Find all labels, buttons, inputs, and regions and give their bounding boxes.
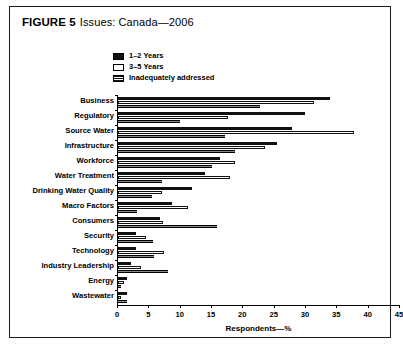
y-axis-tick-label: Source Water: [65, 127, 114, 135]
y-axis-tick-label: Wastewater: [72, 292, 114, 300]
chart-category-group: Infrastructure: [118, 140, 400, 155]
bar-inadequately-addressed: [118, 150, 235, 153]
y-axis-tick-label: Consumers: [72, 217, 114, 225]
bar-inadequately-addressed: [118, 135, 225, 138]
y-axis-tick-label: Infrastructure: [65, 142, 114, 150]
chart-plot-area: BusinessRegulatorySource WaterInfrastruc…: [117, 95, 400, 305]
bar-3-5-years: [118, 221, 163, 224]
x-axis-tick-label: 0: [115, 310, 119, 319]
x-axis-tick: [117, 305, 118, 308]
x-axis-tick-label: 35: [332, 310, 340, 319]
x-axis-tick: [336, 305, 337, 308]
bar-1-2-years: [118, 232, 136, 235]
x-axis-tick-label: 45: [395, 310, 403, 319]
bar-3-5-years: [118, 176, 230, 179]
bar-3-5-years: [118, 146, 265, 149]
bar-3-5-years: [118, 281, 124, 284]
x-axis-tick: [368, 305, 369, 308]
bar-3-5-years: [118, 191, 162, 194]
x-axis-tick: [148, 305, 149, 308]
legend-item-label: Inadequately addressed: [129, 74, 214, 82]
figure-caption: Issues: Canada—2006: [80, 16, 194, 28]
x-axis-line: [117, 305, 400, 306]
x-axis-tick: [305, 305, 306, 308]
figure-number: FIGURE 5: [22, 16, 76, 28]
bar-inadequately-addressed: [118, 165, 212, 168]
bar-inadequately-addressed: [118, 210, 137, 213]
y-axis-tick-label: Water Treatment: [55, 172, 114, 180]
bar-inadequately-addressed: [118, 120, 180, 123]
y-axis-tick-label: Business: [80, 97, 114, 105]
legend-item: 1–2 Years: [113, 51, 214, 61]
bar-1-2-years: [118, 97, 330, 100]
legend-item-label: 3–5 Years: [129, 63, 163, 71]
bar-1-2-years: [118, 217, 160, 220]
x-axis-tick: [399, 305, 400, 308]
bar-1-2-years: [118, 202, 172, 205]
x-axis-title: Respondents—%: [117, 324, 400, 333]
bar-inadequately-addressed: [118, 180, 162, 183]
y-axis-tick-label: Macro Factors: [62, 202, 114, 210]
legend-swatch-solid-icon: [113, 53, 124, 60]
chart-category-group: Workforce: [118, 155, 400, 170]
figure-title: FIGURE 5Issues: Canada—2006: [22, 16, 194, 28]
x-axis-tick-label: 15: [207, 310, 215, 319]
bar-3-5-years: [118, 131, 354, 134]
x-axis-tick-label: 40: [363, 310, 371, 319]
chart-legend: 1–2 Years3–5 YearsInadequately addressed: [113, 51, 214, 83]
x-axis-tick-label: 30: [301, 310, 309, 319]
bar-1-2-years: [118, 172, 205, 175]
chart-category-group: Water Treatment: [118, 170, 400, 185]
chart-category-group: Macro Factors: [118, 200, 400, 215]
bar-3-5-years: [118, 266, 141, 269]
chart-category-group: Source Water: [118, 125, 400, 140]
bar-1-2-years: [118, 262, 131, 265]
legend-item: 3–5 Years: [113, 62, 214, 72]
x-axis-tick-label: 10: [175, 310, 183, 319]
bar-inadequately-addressed: [118, 240, 153, 243]
bar-inadequately-addressed: [118, 195, 152, 198]
y-axis-tick-label: Technology: [72, 247, 114, 255]
chart-category-group: Technology: [118, 245, 400, 260]
x-axis-tick-label: 20: [238, 310, 246, 319]
legend-item: Inadequately addressed: [113, 73, 214, 83]
bar-inadequately-addressed: [118, 300, 127, 303]
bar-1-2-years: [118, 277, 127, 280]
chart-category-group: Business: [118, 95, 400, 110]
chart-category-group: Drinking Water Quality: [118, 185, 400, 200]
y-axis-tick-label: Regulatory: [74, 112, 114, 120]
chart-category-group: Energy: [118, 275, 400, 290]
y-axis-tick-label: Workforce: [77, 157, 114, 165]
y-axis-tick-label: Energy: [88, 277, 114, 285]
chart-category-group: Regulatory: [118, 110, 400, 125]
bar-inadequately-addressed: [118, 225, 217, 228]
legend-item-label: 1–2 Years: [129, 52, 163, 60]
bar-3-5-years: [118, 296, 121, 299]
bar-1-2-years: [118, 187, 192, 190]
chart-category-group: Wastewater: [118, 290, 400, 305]
y-axis-tick-label: Industry Leadership: [41, 262, 114, 270]
bar-1-2-years: [118, 292, 127, 295]
x-axis-tick: [242, 305, 243, 308]
bar-1-2-years: [118, 142, 277, 145]
figure-frame: FIGURE 5Issues: Canada—2006 1–2 Years3–5…: [9, 6, 391, 338]
x-axis-tick: [211, 305, 212, 308]
x-axis-tick-label: 5: [146, 310, 150, 319]
bar-inadequately-addressed: [118, 285, 121, 288]
bar-3-5-years: [118, 101, 314, 104]
bar-1-2-years: [118, 112, 305, 115]
chart-category-group: Industry Leadership: [118, 260, 400, 275]
bar-3-5-years: [118, 236, 146, 239]
bar-3-5-years: [118, 161, 235, 164]
x-axis-tick: [274, 305, 275, 308]
bar-1-2-years: [118, 127, 292, 130]
bar-3-5-years: [118, 206, 188, 209]
legend-swatch-hatched-icon: [113, 75, 124, 82]
bar-1-2-years: [118, 247, 136, 250]
chart-category-group: Security: [118, 230, 400, 245]
bar-3-5-years: [118, 116, 228, 119]
bar-inadequately-addressed: [118, 270, 168, 273]
x-axis-tick: [180, 305, 181, 308]
legend-swatch-open-icon: [113, 64, 124, 71]
y-axis-tick-label: Security: [84, 232, 114, 240]
